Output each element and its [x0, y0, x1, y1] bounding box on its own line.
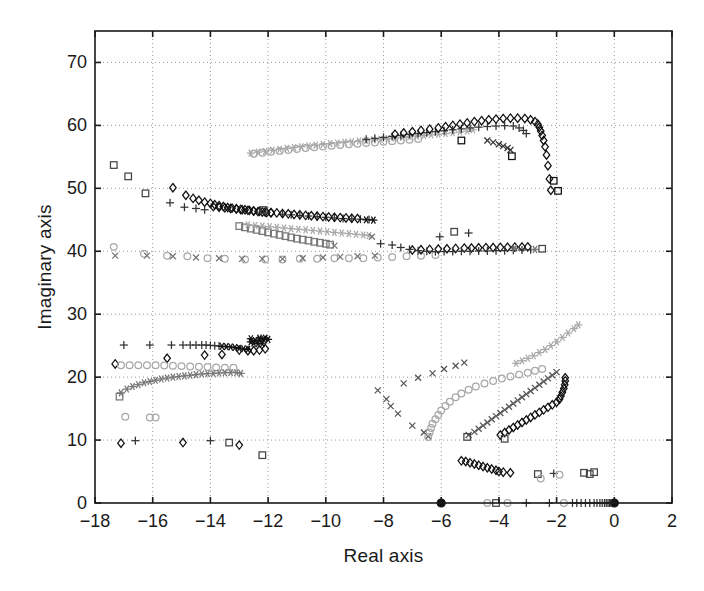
- series-branch-50-diamond-black: [170, 184, 275, 218]
- x-axis-label: Real axis: [95, 545, 672, 567]
- plot-canvas: [0, 0, 704, 591]
- x-tick-4: −10: [311, 511, 342, 532]
- series-branch-low-squares: [535, 469, 598, 477]
- grid-layer: [95, 31, 672, 503]
- series-branch-upper-diamond-black: [392, 114, 554, 194]
- series-branch-low-black-cluster: [458, 457, 514, 477]
- x-tick-5: −8: [373, 511, 394, 532]
- x-tick-7: −4: [489, 511, 510, 532]
- series-branch-40-circles-light: [110, 244, 438, 263]
- x-tick-3: −12: [253, 511, 284, 532]
- x-tick-0: −18: [80, 511, 111, 532]
- series-branch-46-star-black-end: [362, 216, 377, 223]
- x-tick-2: −14: [195, 511, 226, 532]
- x-tick-9: 0: [609, 511, 619, 532]
- series-branch-14-circles: [122, 413, 159, 420]
- series-branch-10-squares: [226, 439, 266, 458]
- series-branch-20-star-arc: [117, 369, 245, 396]
- series-branch-25-plus-row: [120, 341, 223, 350]
- y-axis-label: Imaginary axis: [34, 31, 56, 503]
- data-layer: [110, 114, 618, 507]
- x-tick-10: 2: [667, 511, 677, 532]
- root-locus-figure: −18−16−14−12−10−8−6−4−202 01020304050607…: [0, 0, 704, 591]
- series-branch-right-star-top: [512, 321, 582, 366]
- x-tick-6: −6: [431, 511, 452, 532]
- x-tick-1: −16: [137, 511, 168, 532]
- series-branch-leftedge-squares: [110, 162, 148, 197]
- series-branch-right-squares-low: [464, 434, 508, 442]
- x-tick-8: −2: [546, 511, 567, 532]
- series-branch-10-plus: [131, 437, 214, 445]
- series-branch-44-light-band: [244, 221, 373, 239]
- series-branch-40-plus-row: [377, 229, 535, 256]
- series-branch-right-diamond-diag: [497, 374, 568, 440]
- series-branch-22-circle-row: [118, 362, 237, 371]
